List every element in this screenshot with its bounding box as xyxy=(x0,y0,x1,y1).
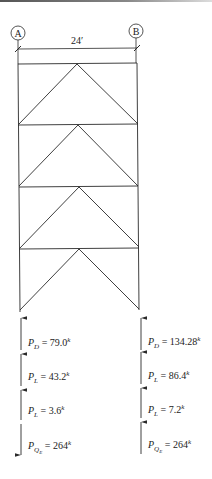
load-a-live-roof: PL = 3.6k xyxy=(27,404,65,419)
load-a-seismic: PQE = 264k xyxy=(27,439,72,455)
gridline-a: A xyxy=(11,26,25,63)
gridline-b: B xyxy=(129,24,143,63)
span-dimension-label: 24′ xyxy=(71,35,83,46)
gridline-b-label: B xyxy=(133,26,140,37)
load-b-live: PL = 86.4k xyxy=(147,369,190,384)
beams xyxy=(18,63,139,249)
column-b xyxy=(137,63,139,310)
load-b-seismic: PQE = 264k xyxy=(147,438,192,454)
column-a-labels: PD = 79.0k PL = 43.2k PL = 3.6k PQE = 26… xyxy=(27,336,72,455)
braced-frame-diagram: A B 24′ PD = 79.0k PL = 43.2k xyxy=(0,0,212,479)
load-b-live-roof: PL = 7.2k xyxy=(147,403,185,418)
gridline-a-label: A xyxy=(14,28,22,39)
column-b-labels: PD = 134.28k PL = 86.4k PL = 7.2k PQE = … xyxy=(147,335,201,454)
column-a xyxy=(18,63,20,312)
load-a-dead: PD = 79.0k xyxy=(27,336,71,351)
load-a-live: PL = 43.2k xyxy=(27,370,70,385)
span-dimension: 24′ xyxy=(15,35,140,52)
load-b-dead: PD = 134.28k xyxy=(147,335,201,350)
